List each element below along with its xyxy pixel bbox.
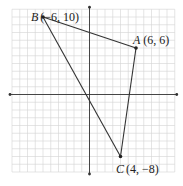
vertex-labels: B(−6, 10) A(6, 6) C(4, −8) (31, 10, 169, 176)
axes (9, 6, 179, 176)
coordinate-plane: B(−6, 10) A(6, 6) C(4, −8) (0, 0, 183, 186)
label-b: B(−6, 10) (31, 10, 79, 24)
label-c: C(4, −8) (116, 162, 159, 176)
label-a: A(6, 6) (132, 33, 169, 47)
point-c (119, 155, 123, 159)
